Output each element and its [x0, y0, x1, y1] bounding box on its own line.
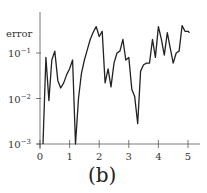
x-tick-label: 0 [37, 151, 43, 162]
y-axis-label: error [6, 28, 32, 39]
y-tick-label: 10−3 [8, 138, 31, 150]
x-tick-label: 3 [126, 151, 132, 162]
figure-caption: (b) [88, 163, 116, 187]
x-tick-label: 5 [185, 151, 191, 162]
axes [36, 12, 200, 149]
plot-area [43, 26, 190, 144]
error-line-chart: 01234510−310−210−1 error (b) [0, 0, 207, 193]
x-tick-label: 2 [96, 151, 102, 162]
error-series-line [43, 26, 190, 144]
x-tick-label: 4 [155, 151, 161, 162]
x-tick-label: 1 [66, 151, 72, 162]
y-tick-label: 10−2 [8, 93, 31, 105]
y-tick-label: 10−1 [8, 47, 31, 59]
